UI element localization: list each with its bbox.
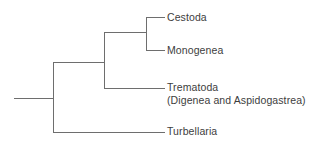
taxon-label-cestoda: Cestoda — [167, 11, 207, 24]
taxon-name-monogenea: Monogenea — [167, 44, 223, 56]
taxon-name-trematoda: Trematoda — [167, 81, 218, 93]
taxon-label-turbellaria: Turbellaria — [167, 125, 217, 138]
taxon-name-turbellaria: Turbellaria — [167, 125, 217, 137]
taxon-label-monogenea: Monogenea — [167, 44, 223, 57]
taxon-name-cestoda: Cestoda — [167, 11, 207, 23]
cladogram-figure: Cestoda Monogenea Trematoda (Digenea and… — [0, 0, 322, 143]
cladogram-tree-lines — [0, 0, 322, 143]
taxon-subname-trematoda: (Digenea and Aspidogastrea) — [167, 94, 306, 107]
taxon-label-trematoda: Trematoda (Digenea and Aspidogastrea) — [167, 81, 306, 107]
